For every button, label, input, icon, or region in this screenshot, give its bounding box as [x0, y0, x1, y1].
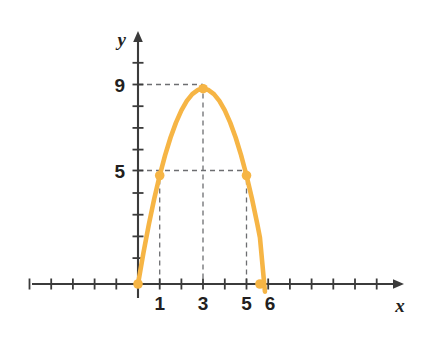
y-axis-arrow-icon — [133, 31, 143, 42]
x-tick-label-6: 6 — [265, 293, 276, 314]
point-0-0 — [133, 279, 143, 289]
y-tick-label-9: 9 — [114, 75, 125, 96]
coordinate-plane: 1 3 5 6 9 5 y x — [0, 0, 425, 348]
point-1-5 — [155, 171, 165, 181]
x-tick-label-1: 1 — [154, 293, 165, 314]
y-axis-label: y — [116, 29, 127, 50]
x-tick-label-5: 5 — [241, 293, 252, 314]
dashed-guide-lines — [138, 85, 247, 285]
x-axis-label: x — [394, 295, 405, 316]
point-x-intercept — [255, 279, 265, 289]
y-tick-label-5: 5 — [114, 161, 125, 182]
point-5-5 — [242, 171, 252, 181]
x-tick-label-3: 3 — [198, 293, 209, 314]
marked-points — [133, 84, 265, 289]
parabola-graph-figure: 1 3 5 6 9 5 y x — [0, 0, 425, 348]
point-3-9 — [198, 84, 208, 94]
x-axis-arrow-icon — [393, 279, 404, 289]
